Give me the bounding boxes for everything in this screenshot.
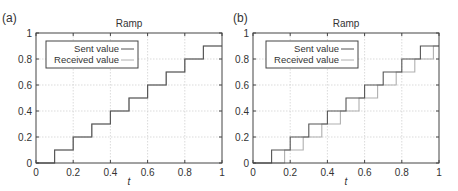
y-tick-label: 0.8: [18, 54, 32, 65]
y-tick-label: 0: [243, 158, 249, 169]
figure: (a) Ramp 00.20.40.60.8100.20.40.60.81 Se…: [0, 0, 458, 191]
x-tick-label: 0.8: [395, 167, 409, 178]
x-axis-label: t: [128, 176, 132, 187]
x-tick-label: 0.6: [141, 167, 155, 178]
legend: Sent value Received value: [46, 41, 138, 68]
x-tick-label: 1: [436, 167, 442, 178]
chart-title: Ramp: [333, 18, 360, 29]
x-axis-label: t: [345, 176, 349, 187]
x-tick-label: 0: [250, 167, 256, 178]
x-tick-label: 0.8: [178, 167, 192, 178]
legend-label-received: Received value: [274, 54, 339, 65]
x-tick-label: 0.2: [283, 167, 297, 178]
y-tick-label: 0: [26, 158, 32, 169]
x-tick-label: 1: [219, 167, 225, 178]
y-tick-label: 0.8: [235, 54, 249, 65]
legend: Sent value Received value: [266, 41, 358, 68]
y-tick-label: 1: [243, 28, 249, 39]
y-tick-label: 0.6: [18, 80, 32, 91]
x-tick-label: 0.6: [358, 167, 372, 178]
panel-label: (b): [233, 11, 248, 25]
y-tick-label: 0.2: [235, 132, 249, 143]
panel-label: (a): [2, 11, 17, 25]
legend-label-sent: Sent value: [294, 43, 339, 54]
y-tick-label: 0.4: [235, 106, 249, 117]
x-tick-label: 0.4: [103, 167, 117, 178]
y-tick-label: 0.2: [18, 132, 32, 143]
x-tick-label: 0: [33, 167, 39, 178]
legend-label-sent: Sent value: [74, 43, 119, 54]
y-tick-label: 0.4: [18, 106, 32, 117]
y-tick-label: 1: [26, 28, 32, 39]
chart-title: Ramp: [116, 18, 143, 29]
x-tick-label: 0.2: [66, 167, 80, 178]
x-tick-label: 0.4: [320, 167, 334, 178]
panel-a: (a) Ramp 00.20.40.60.8100.20.40.60.81 Se…: [2, 11, 225, 187]
legend-label-received: Received value: [54, 54, 119, 65]
y-tick-label: 0.6: [235, 80, 249, 91]
panel-b: (b) Ramp 00.20.40.60.8100.20.40.60.81 Se…: [233, 11, 442, 187]
